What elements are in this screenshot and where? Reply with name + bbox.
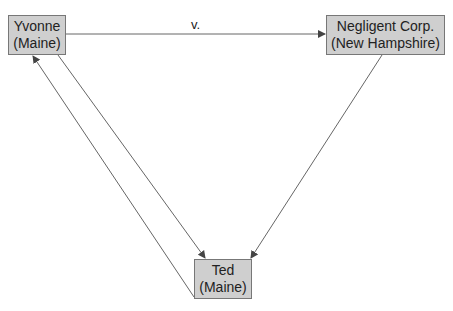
node-negligent-state: (New Hampshire) xyxy=(331,35,440,52)
edge-label-versus: v. xyxy=(191,17,200,32)
node-ted-state: (Maine) xyxy=(199,279,246,296)
node-ted: Ted (Maine) xyxy=(194,259,252,299)
edge-ted-to-yvonne xyxy=(33,56,194,297)
node-negligent-corp: Negligent Corp. (New Hampshire) xyxy=(326,15,445,55)
node-yvonne: Yvonne (Maine) xyxy=(8,15,66,55)
node-yvonne-name: Yvonne xyxy=(14,18,61,35)
edge-negligent-to-ted xyxy=(251,55,382,258)
edge-yvonne-to-ted xyxy=(58,55,205,258)
node-yvonne-state: (Maine) xyxy=(13,35,60,52)
node-ted-name: Ted xyxy=(212,262,235,279)
node-negligent-name: Negligent Corp. xyxy=(337,18,434,35)
